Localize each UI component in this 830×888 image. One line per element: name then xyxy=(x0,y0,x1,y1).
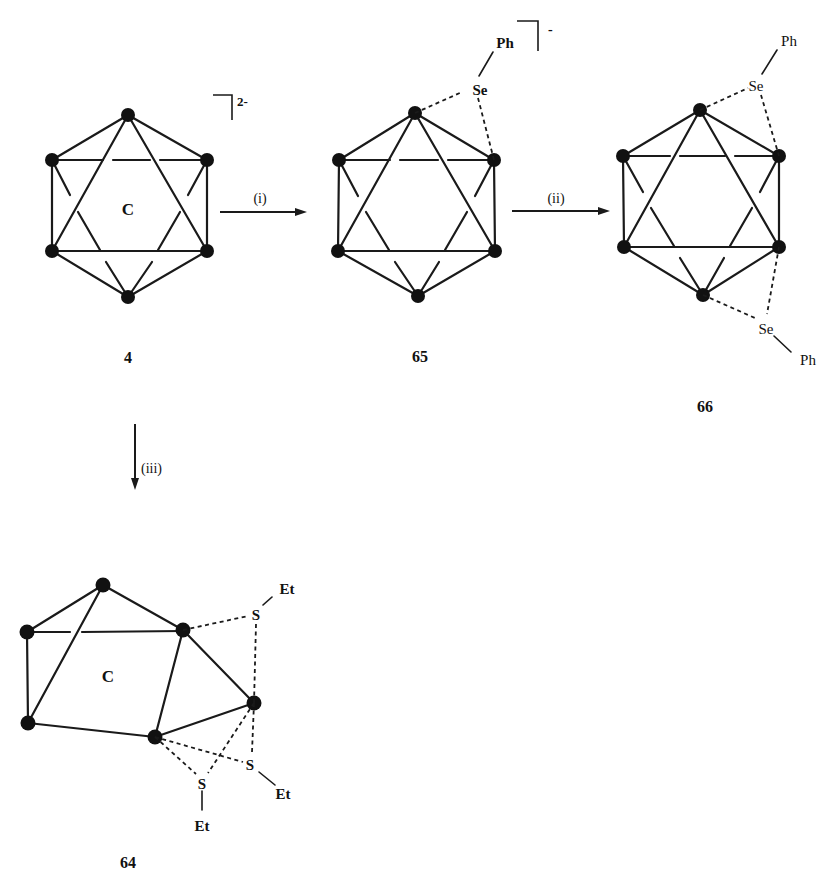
cage-carbon-label: C xyxy=(122,200,134,219)
et-group-label-right: Et xyxy=(276,786,291,802)
compound-66-cage xyxy=(616,103,786,302)
se-ph-bridge-65 xyxy=(415,52,494,160)
compound-label-4: 4 xyxy=(124,349,132,366)
arrow-ii xyxy=(512,207,610,215)
ph-group-label-bottom: Ph xyxy=(800,352,816,368)
arrow-iii-label: (iii) xyxy=(141,461,162,477)
compound-65-cage xyxy=(331,106,502,303)
arrow-iii xyxy=(131,424,139,490)
se-atom-label-top: Se xyxy=(749,78,764,94)
s-atom-label-upper: S xyxy=(252,607,260,623)
ph-group-label-top: Ph xyxy=(781,33,797,49)
et-group-label-bottom: Et xyxy=(195,818,210,834)
reaction-scheme: C 2- 4 (i) xyxy=(0,0,830,888)
arrow-ii-label: (ii) xyxy=(547,191,564,207)
cage-carbon-label-64: C xyxy=(102,667,114,686)
charge-label-65: - xyxy=(548,22,553,37)
charge-bracket-65 xyxy=(517,21,538,51)
arrow-i xyxy=(220,208,307,216)
compound-label-65: 65 xyxy=(412,348,428,365)
compound-label-66: 66 xyxy=(697,398,713,415)
ph-group-label: Ph xyxy=(496,35,514,51)
s-atom-label-right: S xyxy=(246,757,254,773)
compound-label-64: 64 xyxy=(120,854,136,871)
charge-label-4: 2- xyxy=(237,94,248,109)
arrow-i-label: (i) xyxy=(253,191,267,207)
se-ph-bridge-66-top xyxy=(700,50,779,156)
se-ph-bridge-66-bottom xyxy=(703,247,791,352)
et-group-label-upper: Et xyxy=(280,581,295,597)
se-atom-label-bottom: Se xyxy=(759,321,774,337)
s-atom-label-bottom: S xyxy=(198,776,206,792)
se-atom-label: Se xyxy=(473,82,488,98)
compound-64-cage xyxy=(20,578,262,745)
charge-bracket-4 xyxy=(213,95,232,120)
